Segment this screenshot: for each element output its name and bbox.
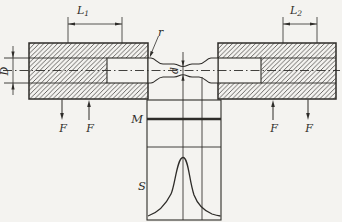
arrowhead-left bbox=[68, 22, 75, 25]
dim-label-D: D bbox=[0, 66, 11, 76]
dimension-L2: L2 bbox=[283, 4, 317, 43]
dim-label-L1: L1 bbox=[76, 4, 89, 18]
up-arrowhead bbox=[87, 100, 91, 107]
down-arrowhead bbox=[306, 113, 310, 120]
arrowhead-right bbox=[310, 22, 317, 25]
plot-label-M: M bbox=[130, 112, 144, 126]
force-arrow-3: F bbox=[269, 100, 278, 135]
force-arrow-1: F bbox=[58, 100, 67, 136]
dim-label-L2: L2 bbox=[289, 4, 302, 18]
arrowhead-left bbox=[283, 22, 290, 25]
force-label: F bbox=[85, 122, 94, 135]
force-arrow-2: F bbox=[85, 100, 94, 135]
dimension-L1: L1 bbox=[68, 4, 122, 43]
arrowhead-top bbox=[11, 52, 14, 59]
arrowhead-bottom bbox=[181, 75, 184, 81]
force-label: F bbox=[269, 122, 278, 135]
force-label: F bbox=[58, 122, 67, 135]
down-arrowhead bbox=[60, 113, 64, 120]
arrowhead-bottom bbox=[11, 83, 14, 90]
specimen-diagram: L1 L2 D d r F F F bbox=[0, 0, 342, 222]
arrowhead bbox=[150, 51, 154, 57]
dim-label-d: d bbox=[168, 67, 181, 74]
arrowhead-right bbox=[115, 22, 122, 25]
diagram-canvas: L1 L2 D d r F F F bbox=[0, 0, 342, 222]
leader-r: r bbox=[150, 26, 164, 57]
leader-label-r: r bbox=[158, 26, 164, 39]
dimension-D: D bbox=[0, 46, 15, 95]
force-arrow-4: F bbox=[304, 100, 313, 136]
up-arrowhead bbox=[271, 100, 275, 107]
plot-label-S: S bbox=[138, 179, 146, 193]
arrowhead-top bbox=[181, 61, 184, 67]
force-label: F bbox=[304, 122, 313, 135]
stress-distribution-curve-S bbox=[148, 158, 221, 217]
